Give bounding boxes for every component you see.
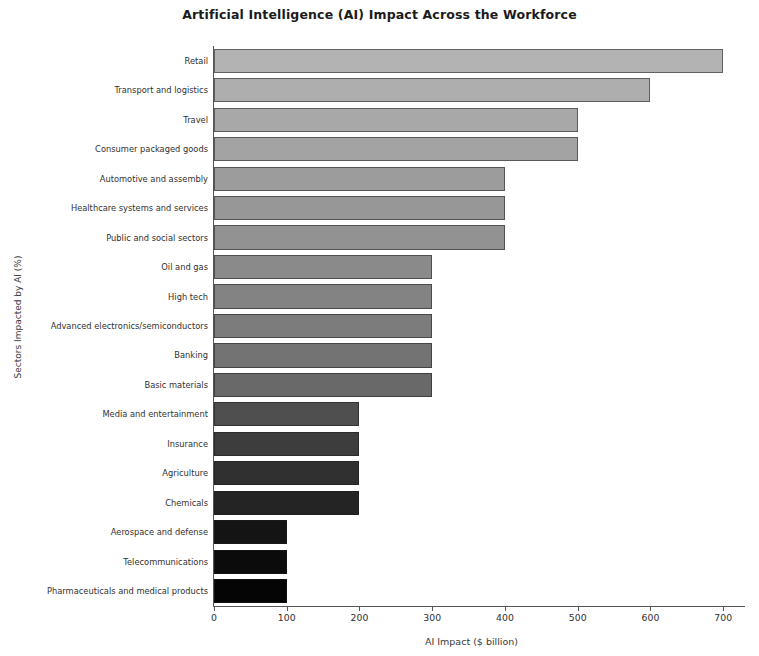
bar <box>214 108 578 132</box>
bar-row <box>214 402 745 426</box>
x-axis-tick-label: 300 <box>412 612 452 623</box>
bar-row <box>214 78 745 102</box>
bar <box>214 284 432 308</box>
bar <box>214 550 287 574</box>
bar <box>214 343 432 367</box>
y-axis-tick-label: Media and entertainment <box>102 409 208 419</box>
y-axis-tick-label: Pharmaceuticals and medical products <box>47 586 208 596</box>
bar <box>214 520 287 544</box>
bar <box>214 49 723 73</box>
bar-row <box>214 284 745 308</box>
bar-row <box>214 373 745 397</box>
bar <box>214 196 505 220</box>
bar-row <box>214 137 745 161</box>
x-axis-tick-mark <box>214 607 215 611</box>
y-axis-tick-label: Insurance <box>167 439 208 449</box>
y-axis-tick-label: Basic materials <box>144 380 208 390</box>
bar <box>214 137 578 161</box>
bar <box>214 432 359 456</box>
x-axis-tick-label: 700 <box>703 612 743 623</box>
x-axis-tick-label: 100 <box>267 612 307 623</box>
y-axis-tick-label: Advanced electronics/semiconductors <box>51 321 208 331</box>
x-axis-title: AI Impact ($ billion) <box>214 636 729 647</box>
x-axis-tick-mark <box>650 607 651 611</box>
bar <box>214 491 359 515</box>
bar <box>214 78 650 102</box>
bar-row <box>214 49 745 73</box>
x-axis-tick-mark <box>359 607 360 611</box>
y-axis-tick-label: Agriculture <box>162 468 208 478</box>
y-axis-tick-label: Public and social sectors <box>106 233 208 243</box>
x-axis-tick-label: 500 <box>558 612 598 623</box>
x-axis-tick-mark <box>287 607 288 611</box>
x-axis-tick-mark <box>578 607 579 611</box>
bar <box>214 225 505 249</box>
y-axis-tick-label: Aerospace and defense <box>111 527 208 537</box>
bar-row <box>214 432 745 456</box>
y-axis-tick-label: Banking <box>174 350 208 360</box>
bar <box>214 461 359 485</box>
y-axis-tick-label: Transport and logistics <box>114 85 208 95</box>
x-axis-tick-mark <box>723 607 724 611</box>
y-axis-tick-label: Consumer packaged goods <box>95 144 208 154</box>
chart-figure: Artificial Intelligence (AI) Impact Acro… <box>0 0 759 656</box>
x-axis-spine <box>213 606 745 607</box>
bar <box>214 579 287 603</box>
bar <box>214 373 432 397</box>
y-axis-tick-label: Telecommunications <box>123 557 208 567</box>
y-axis-tick-label: Oil and gas <box>161 262 208 272</box>
x-axis-tick-mark <box>505 607 506 611</box>
y-axis-tick-label: Retail <box>185 56 208 66</box>
bar <box>214 402 359 426</box>
y-axis-tick-label: High tech <box>168 292 208 302</box>
bar-row <box>214 225 745 249</box>
y-axis-tick-label: Travel <box>183 115 208 125</box>
y-axis-tick-label: Chemicals <box>165 498 208 508</box>
bar <box>214 314 432 338</box>
bar-row <box>214 491 745 515</box>
x-axis-tick-label: 600 <box>630 612 670 623</box>
x-axis-tick-label: 0 <box>194 612 234 623</box>
bar-row <box>214 255 745 279</box>
y-axis-tick-labels: RetailTransport and logisticsTravelConsu… <box>0 0 208 656</box>
x-axis-tick-label: 200 <box>339 612 379 623</box>
bar-row <box>214 550 745 574</box>
bar-row <box>214 167 745 191</box>
bar-row <box>214 314 745 338</box>
bar-row <box>214 579 745 603</box>
plot-area <box>214 46 745 606</box>
bar <box>214 255 432 279</box>
y-axis-tick-label: Healthcare systems and services <box>71 203 208 213</box>
bar-row <box>214 461 745 485</box>
bar-row <box>214 520 745 544</box>
x-axis-tick-label: 400 <box>485 612 525 623</box>
bar-row <box>214 108 745 132</box>
bar <box>214 167 505 191</box>
bar-row <box>214 196 745 220</box>
bar-row <box>214 343 745 367</box>
y-axis-tick-label: Automotive and assembly <box>100 174 208 184</box>
x-axis-tick-mark <box>432 607 433 611</box>
